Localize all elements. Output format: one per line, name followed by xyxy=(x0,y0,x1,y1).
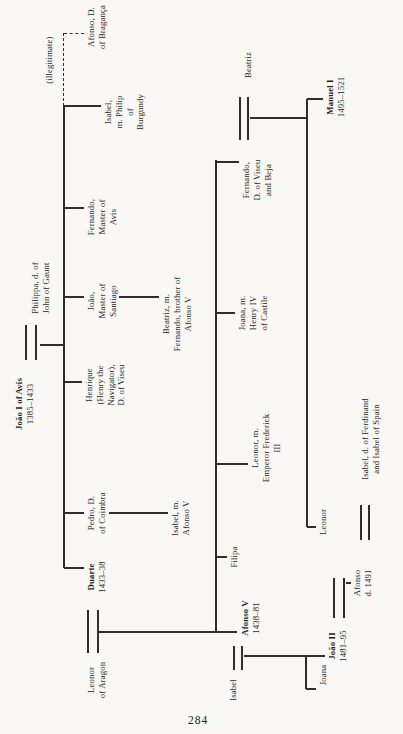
connector-line xyxy=(305,656,307,689)
person-isabel-burgundy-line-1: m. Philip xyxy=(114,66,125,158)
person-manuel-i-line-1: 1495–1521 xyxy=(336,51,347,143)
person-isabel-burgundy-line-0: Isabel, xyxy=(103,66,114,158)
person-fernando-viseu-line-1: D. of Viseu xyxy=(252,134,263,226)
connector-line xyxy=(216,463,248,465)
person-fernando-viseu: Fernando,D. of Viseuand Beja xyxy=(241,134,273,226)
person-illegitimate-label: (illegitimate) xyxy=(44,14,55,106)
person-beatriz-wife: Beatriz xyxy=(243,25,254,105)
person-isabel-burgundy-line-3: Burgundy xyxy=(135,66,146,158)
marriage-sign-fernando-viseu--beatriz xyxy=(247,97,249,140)
person-manuel-i-line-0: Manuel I xyxy=(325,51,336,143)
person-afonso-v-line-1: 1438–81 xyxy=(251,572,262,664)
person-afonso-d-1491-line-1: d. 1491 xyxy=(363,543,374,623)
connector-line xyxy=(216,556,227,558)
person-joao-santiago-line-0: João, xyxy=(86,255,97,347)
person-fernando-avis-line-1: Master of xyxy=(97,171,108,263)
marriage-sign-joao-i--philippa xyxy=(25,325,27,360)
person-illegitimate-label-line-0: (illegitimate) xyxy=(44,14,55,106)
connector-line xyxy=(64,381,82,383)
person-isabel-spain-line-1: and Isabel of Spain xyxy=(371,383,382,495)
person-henrique-line-2: Navigator), xyxy=(106,339,117,431)
connector-line xyxy=(63,106,65,568)
person-leonor-empress-line-2: III xyxy=(272,402,283,494)
connector-line xyxy=(306,99,308,527)
person-joao-ii: João II1481–95 xyxy=(327,600,349,692)
marriage-sign-joao-ii--leonor xyxy=(333,578,335,618)
marriage-sign-afonso--isabel-spain xyxy=(360,505,362,540)
connector-line xyxy=(64,567,84,569)
person-philippa: Philippa, d. ofJohn of Gaunt xyxy=(30,242,52,334)
connector-line xyxy=(64,207,84,209)
person-afonso-d-1491-line-0: Afonso xyxy=(352,543,363,623)
person-fernando-viseu-line-0: Fernando, xyxy=(241,134,252,226)
person-isabel-m-afonso-v: Isabel, m.Afonso V xyxy=(170,472,192,564)
person-joao-i: João I of Avis1385–1433 xyxy=(14,358,36,450)
person-beatriz-m-fernando-line-0: Beatriz, m. xyxy=(161,264,172,364)
connector-line xyxy=(109,512,168,514)
connector-line xyxy=(216,161,239,163)
person-henrique-line-3: D. of Viseu xyxy=(116,339,127,431)
connector-line xyxy=(98,631,216,633)
book-page: João I of Avis1385–1433Philippa, d. ofJo… xyxy=(0,0,403,734)
person-beatriz-m-fernando-line-2: Afonso V xyxy=(183,264,194,364)
person-isabel-m-afonso-v-line-0: Isabel, m. xyxy=(170,472,181,564)
connector-line xyxy=(215,160,217,632)
connector-line xyxy=(346,582,351,584)
person-joao-i-line-0: João I of Avis xyxy=(14,358,25,450)
person-joao-i-line-1: 1385–1433 xyxy=(25,358,36,450)
person-isabel-spain: Isabel, d. of Ferdinandand Isabel of Spa… xyxy=(360,383,382,495)
marriage-sign-fernando-viseu--beatriz xyxy=(239,97,241,140)
marriage-sign-isabel--afonso-v xyxy=(241,646,243,670)
connector-line xyxy=(64,33,84,34)
person-fernando-avis-line-0: Fernando, xyxy=(86,171,97,263)
person-isabel-m-afonso-v-line-1: Afonso V xyxy=(181,472,192,564)
person-beatriz-wife-line-0: Beatriz xyxy=(243,25,254,105)
connector-line xyxy=(40,344,64,346)
connector-line xyxy=(64,105,101,107)
person-joana-castile-line-1: Henry IV xyxy=(248,267,259,359)
connector-line xyxy=(63,33,64,106)
person-beatriz-m-fernando: Beatriz, m.Fernando, brother ofAfonso V xyxy=(161,264,193,364)
person-joana-castile-line-0: Joana, m. xyxy=(237,267,248,359)
person-leonor-empress-line-0: Leonor, m. xyxy=(250,402,261,494)
connector-line xyxy=(307,526,316,528)
person-leonor-wife-joao-ii: Leonor xyxy=(318,482,329,562)
page-number: 284 xyxy=(168,714,228,726)
person-afonso-braganca: Afonso, D.of Bragança xyxy=(86,0,108,73)
connector-line xyxy=(244,655,325,657)
person-henrique: Henrique(Henry theNavigator),D. of Viseu xyxy=(84,339,127,431)
connector-line xyxy=(119,296,159,298)
person-henrique-line-1: (Henry the xyxy=(95,339,106,431)
person-beatriz-m-fernando-line-1: Fernando, brother of xyxy=(172,264,183,364)
person-philippa-line-0: Philippa, d. of xyxy=(30,242,41,334)
person-leonor-empress-line-1: Emperor Frederick xyxy=(261,402,272,494)
marriage-sign-leonor-aragon--duarte xyxy=(87,610,89,653)
person-joao-santiago-line-1: Master of xyxy=(97,255,108,347)
person-henrique-line-0: Henrique xyxy=(84,339,95,431)
marriage-sign-joao-ii--leonor xyxy=(343,578,345,618)
person-fernando-avis: Fernando,Master ofAvis xyxy=(86,171,118,263)
person-joao-santiago-line-2: Santiago xyxy=(108,255,119,347)
person-leonor-empress: Leonor, m.Emperor FrederickIII xyxy=(250,402,282,494)
connector-line xyxy=(306,688,316,690)
person-afonso-d-1491: Afonsod. 1491 xyxy=(352,543,374,623)
person-isabel-spain-line-0: Isabel, d. of Ferdinand xyxy=(360,383,371,495)
person-pedro: Pedro, D.of Coimbra xyxy=(86,467,108,559)
connector-line xyxy=(64,296,84,298)
person-isabel-burgundy: Isabel,m. PhilipofBurgundy xyxy=(103,66,146,158)
person-joao-santiago: João,Master ofSantiago xyxy=(86,255,118,347)
connector-line xyxy=(307,98,323,100)
person-fernando-avis-line-2: Avis xyxy=(108,171,119,263)
person-filipa: Filipa xyxy=(229,517,240,597)
marriage-sign-joao-i--philippa xyxy=(35,325,37,360)
marriage-sign-leonor-aragon--duarte xyxy=(97,610,99,653)
person-filipa-line-0: Filipa xyxy=(229,517,240,597)
marriage-sign-afonso--isabel-spain xyxy=(368,505,370,540)
connector-line xyxy=(64,512,84,514)
person-manuel-i: Manuel I1495–1521 xyxy=(325,51,347,143)
connector-line xyxy=(216,631,237,633)
person-joana-castile: Joana, m.Henry IVof Castile xyxy=(237,267,269,359)
person-pedro-line-1: of Coimbra xyxy=(97,467,108,559)
person-isabel-burgundy-line-2: of xyxy=(125,66,136,158)
person-afonso-braganca-line-0: Afonso, D. xyxy=(86,0,97,73)
